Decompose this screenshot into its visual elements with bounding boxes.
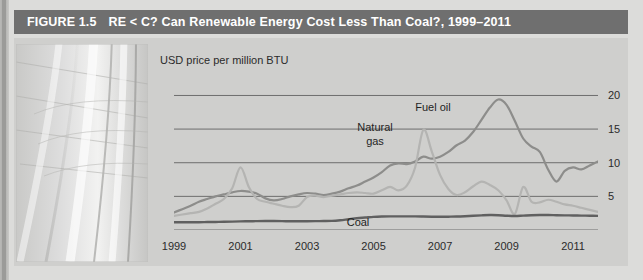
- plot-svg: [174, 82, 598, 230]
- figure-title-bar: FIGURE 1.5RE < C? Can Renewable Energy C…: [14, 10, 628, 34]
- natural-gas-label-line2: gas: [346, 134, 404, 148]
- y-tick-label: 5: [608, 190, 614, 202]
- x-tick-label: 2005: [361, 240, 385, 252]
- y-axis-labels: 5101520: [598, 82, 638, 230]
- natural-gas-label: Natural gas: [346, 120, 404, 148]
- fuel-oil-label-text: Fuel oil: [415, 101, 450, 113]
- page-edge-shadow: [2, 0, 6, 280]
- coal-label: Coal: [338, 215, 378, 229]
- y-tick-label: 15: [608, 123, 620, 135]
- figure-container: FIGURE 1.5RE < C? Can Renewable Energy C…: [0, 0, 643, 280]
- x-tick-label: 2001: [228, 240, 252, 252]
- figure-title-text: FIGURE 1.5RE < C? Can Renewable Energy C…: [14, 15, 511, 29]
- photo-artwork: [16, 44, 148, 262]
- y-tick-label: 10: [608, 157, 620, 169]
- x-tick-label: 2003: [295, 240, 319, 252]
- x-tick-label: 1999: [162, 240, 186, 252]
- x-tick-label: 2009: [494, 240, 518, 252]
- coal-label-text: Coal: [347, 216, 370, 228]
- x-axis-labels: 1999200120032005200720092011: [174, 234, 598, 256]
- fuel-oil-label: Fuel oil: [406, 100, 460, 114]
- architectural-curves-photo: [16, 44, 148, 262]
- figure-number: FIGURE 1.5: [27, 15, 97, 29]
- x-tick-label: 2007: [428, 240, 452, 252]
- y-tick-label: 20: [608, 89, 620, 101]
- y-axis-title: USD price per million BTU: [160, 54, 288, 66]
- figure-caption: RE < C? Can Renewable Energy Cost Less T…: [109, 15, 512, 29]
- natural-gas-label-line1: Natural: [346, 120, 404, 134]
- line-chart: USD price per million BTU 5101520 199920…: [152, 44, 620, 262]
- x-tick-label: 2011: [561, 240, 585, 252]
- plot-area: [174, 82, 598, 230]
